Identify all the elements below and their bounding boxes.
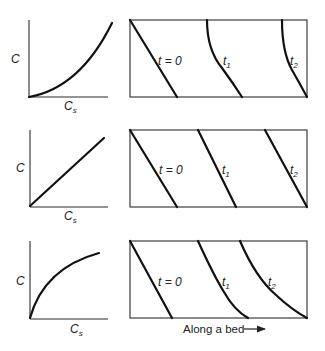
row-3: C Cs t = 0 t1 t2 bbox=[16, 241, 307, 338]
label-t0: t = 0 bbox=[158, 275, 182, 289]
profile-t2 bbox=[240, 241, 307, 318]
label-t0: t = 0 bbox=[158, 54, 182, 68]
y-axis-label: C bbox=[11, 52, 20, 66]
row-2: C Cs t = 0 t1 t2 bbox=[16, 130, 307, 225]
label-t2: t2 bbox=[290, 163, 298, 179]
profile-t1 bbox=[198, 130, 236, 207]
isotherm-curve bbox=[29, 23, 112, 97]
label-t1: t1 bbox=[222, 275, 230, 291]
isotherm-curve bbox=[30, 253, 99, 318]
profile-plot-constant-pattern: t = 0 t1 t2 bbox=[130, 130, 307, 207]
bed-axis-caption: Along a bed bbox=[183, 323, 265, 335]
bed-box bbox=[130, 130, 307, 207]
isotherm-plot-linear: C Cs bbox=[16, 130, 108, 225]
label-t0: t = 0 bbox=[159, 163, 183, 177]
bed-box bbox=[130, 20, 307, 97]
x-axis-label: Cs bbox=[64, 99, 77, 115]
y-axis-label: C bbox=[16, 274, 25, 288]
caption-text: Along a bed bbox=[183, 323, 244, 335]
label-t1: t1 bbox=[222, 163, 230, 179]
profile-t2 bbox=[282, 20, 307, 97]
isotherm-line bbox=[30, 138, 104, 206]
x-axis-label: Cs bbox=[70, 322, 83, 338]
profile-plot-spreading: t = 0 t1 t2 bbox=[130, 20, 307, 97]
label-t2: t2 bbox=[290, 54, 298, 70]
isotherm-plot-convex: C Cs bbox=[11, 20, 112, 115]
label-t2: t2 bbox=[268, 275, 276, 291]
profile-t2 bbox=[265, 130, 307, 207]
isotherm-profile-diagram: C Cs t = 0 t1 t2 C Cs t = 0 t1 bbox=[0, 0, 325, 351]
x-axis-label: Cs bbox=[64, 209, 77, 225]
label-t1: t1 bbox=[223, 54, 231, 70]
isotherm-plot-concave: C Cs bbox=[16, 241, 108, 338]
bed-box bbox=[130, 241, 307, 318]
row-1: C Cs t = 0 t1 t2 bbox=[11, 20, 307, 115]
y-axis-label: C bbox=[16, 161, 25, 175]
profile-plot-self-sharpening: t = 0 t1 t2 bbox=[130, 241, 307, 318]
